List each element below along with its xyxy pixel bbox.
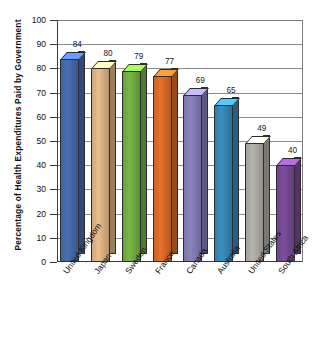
y-tick-mark [50,44,57,45]
y-tick-mark [50,68,57,69]
y-tick-label: 100 [0,16,46,25]
bar-side-face [232,97,239,254]
y-tick-mark [50,141,57,142]
bar-side-face [201,87,208,254]
bar-front-face [60,59,79,262]
bar-front-face [245,143,264,262]
bar-value-label: 77 [157,57,183,66]
bar-side-face [78,51,85,254]
bar-value-label: 84 [64,40,90,49]
y-tick-mark [50,214,57,215]
y-tick-label: 10 [0,234,46,243]
y-tick-label: 60 [0,113,46,122]
bar-value-label: 49 [249,124,275,133]
y-tick-mark [50,165,57,166]
bar-side-face [171,68,178,254]
bar-side-face [109,60,116,254]
y-tick-label: 70 [0,89,46,98]
y-tick-mark [50,189,57,190]
bar[interactable] [60,51,86,262]
bar-side-face [140,63,147,254]
bar-front-face [122,71,141,262]
bar-front-face [183,95,202,262]
y-tick-label: 40 [0,161,46,170]
bar-front-face [214,105,233,262]
bar-value-label: 40 [280,146,306,155]
bar[interactable] [153,68,179,262]
bar-value-label: 80 [95,49,121,58]
bar-value-label: 69 [187,76,213,85]
bar-value-label: 79 [126,52,152,61]
bar[interactable] [122,63,148,262]
y-tick-label: 50 [0,137,46,146]
y-tick-mark [50,117,57,118]
y-tick-mark [50,238,57,239]
y-tick-mark [50,20,57,21]
bar[interactable] [214,97,240,262]
bar-chart: Percentage of Health Expenditures Paid b… [0,0,312,357]
x-axis-labels: United KingdomJapanSwedenFranceCanadaAus… [0,262,312,357]
bar-front-face [153,76,172,262]
y-tick-label: 80 [0,64,46,73]
bar[interactable] [183,87,209,262]
bar-value-label: 65 [218,86,244,95]
y-tick-mark [50,93,57,94]
y-tick-label: 20 [0,210,46,219]
y-tick-label: 30 [0,185,46,194]
y-tick-label: 90 [0,40,46,49]
